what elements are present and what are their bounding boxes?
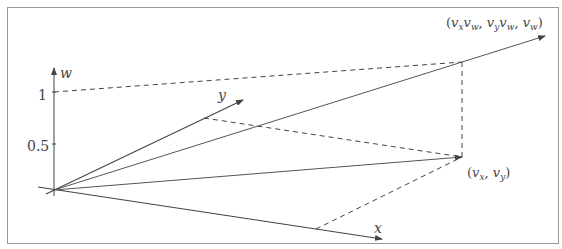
tick-label-0.5: 0.5 [27,138,49,154]
dashed-w1-to-top [54,62,462,92]
x-axis-label: x [374,220,382,236]
dashed-guides [54,62,462,229]
projected-point-label: (vx, vy) [467,165,510,182]
y-axis [46,100,243,194]
diagram-canvas: w y x 1 0.5 (vxvw, vyvw, vw) (vx, vy) [0,0,562,249]
dashed-y-projection [204,118,462,157]
x-axis [38,187,382,239]
y-axis-label: y [217,87,227,103]
frame-border [8,8,559,244]
vector-to-projected-point [54,157,462,190]
tick-label-1: 1 [38,87,47,103]
dashed-x-projection [316,157,462,229]
homogeneous-point-label: (vxvw, vyvw, vw) [446,15,543,32]
w-axis-label: w [60,65,72,81]
